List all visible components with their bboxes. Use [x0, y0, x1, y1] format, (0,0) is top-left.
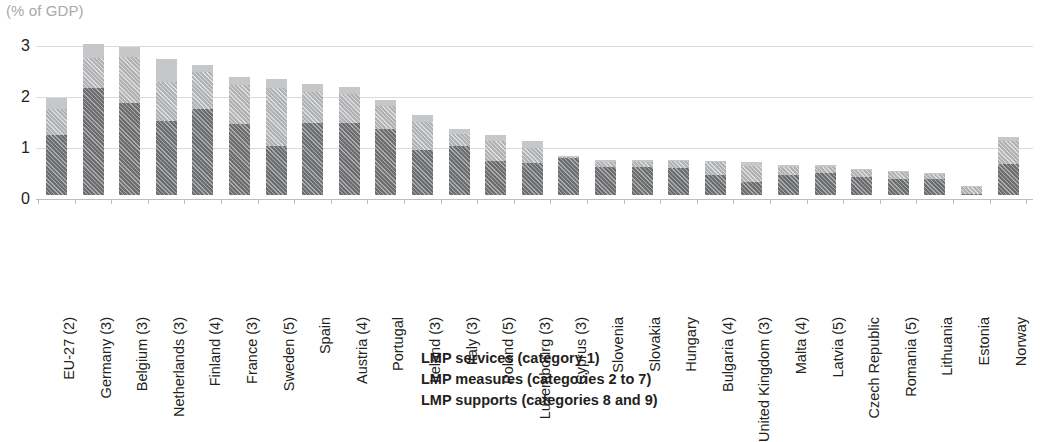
bar-segment-supports	[302, 123, 323, 195]
bar-segment-supports	[449, 146, 470, 195]
bar-segment-supports	[961, 194, 982, 195]
x-axis-tick	[477, 199, 478, 204]
x-axis-category-label: Czech Republic	[867, 317, 882, 419]
bar[interactable]	[705, 161, 726, 195]
x-axis-tick	[916, 199, 917, 204]
bar[interactable]	[485, 135, 506, 195]
x-axis-tick	[148, 199, 149, 204]
bar-segment-measures	[851, 170, 872, 177]
x-axis-tick	[258, 199, 259, 204]
x-axis-category-label: Norway	[1014, 317, 1029, 366]
bar-segment-services	[266, 79, 287, 89]
bar-segment-supports	[229, 124, 250, 195]
bar[interactable]	[522, 141, 543, 195]
bar[interactable]	[558, 156, 579, 195]
bar-segment-services	[229, 77, 250, 85]
bar-segment-supports	[119, 103, 140, 195]
bar[interactable]	[632, 160, 653, 195]
bar-segment-measures	[778, 167, 799, 175]
x-axis-tick	[111, 199, 112, 204]
bar-segment-supports	[888, 179, 909, 195]
bar[interactable]	[888, 171, 909, 195]
bar-segment-supports	[192, 109, 213, 195]
bar[interactable]	[815, 165, 836, 195]
bar[interactable]	[961, 186, 982, 195]
bar-segment-supports	[632, 167, 653, 195]
x-axis-category-label: Spain	[318, 317, 333, 354]
x-axis-tick	[331, 199, 332, 204]
bar-segment-services	[83, 44, 104, 59]
bar[interactable]	[266, 79, 287, 195]
x-axis-category-label: EU-27 (2)	[62, 317, 77, 380]
x-axis-tick	[294, 199, 295, 204]
x-axis-tick	[880, 199, 881, 204]
bar[interactable]	[449, 129, 470, 195]
bar-segment-supports	[851, 177, 872, 195]
bar[interactable]	[83, 44, 104, 195]
bar[interactable]	[119, 47, 140, 195]
x-axis-category-label: Latvia (5)	[831, 317, 846, 377]
x-axis-tick	[953, 199, 954, 204]
bar-segment-services	[339, 87, 360, 94]
bar-segment-services	[192, 65, 213, 72]
legend-item[interactable]: LMP supports (categories 8 and 9)	[400, 389, 800, 410]
bar-segment-supports	[924, 179, 945, 195]
x-axis-tick	[404, 199, 405, 204]
bar-segment-measures	[449, 134, 470, 146]
x-axis-tick	[587, 199, 588, 204]
bar-segment-measures	[741, 166, 762, 182]
bar-segment-supports	[266, 146, 287, 195]
bar-segment-supports	[339, 123, 360, 195]
x-axis-category-label: Netherlands (3)	[172, 317, 187, 417]
y-axis-tick-labels: 0123	[0, 40, 30, 205]
x-axis-tick	[807, 199, 808, 204]
bar[interactable]	[412, 115, 433, 195]
bar-segment-supports	[375, 129, 396, 195]
bar[interactable]	[229, 77, 250, 195]
bar-segment-supports	[778, 175, 799, 195]
bar-segment-measures	[83, 58, 104, 88]
x-axis-tick	[184, 199, 185, 204]
bar[interactable]	[741, 162, 762, 195]
legend-item[interactable]: LMP services (category 1)	[400, 347, 800, 368]
legend-swatch-services-icon	[400, 351, 414, 364]
x-axis-tick	[697, 199, 698, 204]
bar-segment-supports	[46, 135, 67, 195]
bar[interactable]	[924, 173, 945, 195]
bar[interactable]	[998, 137, 1019, 195]
bar[interactable]	[192, 65, 213, 195]
bar[interactable]	[668, 160, 689, 195]
bar[interactable]	[851, 169, 872, 196]
bar-segment-services	[156, 59, 177, 82]
y-axis-tick-label: 1	[0, 140, 30, 156]
bar[interactable]	[595, 160, 616, 195]
x-axis-tick	[990, 199, 991, 204]
bar[interactable]	[46, 98, 67, 195]
bar[interactable]	[156, 59, 177, 195]
bar[interactable]	[375, 100, 396, 195]
x-axis-category-label: Sweden (5)	[282, 317, 297, 391]
bar[interactable]	[302, 84, 323, 195]
bar-segment-measures	[668, 161, 689, 168]
bar-segment-measures	[888, 172, 909, 179]
bar-segment-supports	[412, 150, 433, 195]
bar[interactable]	[778, 165, 799, 195]
legend-label: LMP services (category 1)	[421, 350, 600, 366]
x-axis-category-labels: EU-27 (2)Germany (3)Belgium (3)Netherlan…	[36, 205, 1033, 325]
legend-swatch-measures-icon	[400, 372, 414, 385]
bar-segment-supports	[668, 168, 689, 195]
x-axis-category-label: Lithuania	[940, 317, 955, 376]
legend-label: LMP supports (categories 8 and 9)	[421, 392, 658, 408]
bar-segment-measures	[375, 106, 396, 129]
legend-item[interactable]: LMP measures (categories 2 to 7)	[400, 368, 800, 389]
bar[interactable]	[339, 87, 360, 195]
axis-title: (% of GDP)	[6, 2, 84, 19]
x-axis-category-label: Austria (4)	[355, 317, 370, 384]
bar-segment-supports	[815, 173, 836, 195]
y-axis-tick-label: 2	[0, 89, 30, 105]
bar-segment-measures	[961, 187, 982, 194]
chart-legend: LMP services (category 1)LMP measures (c…	[400, 347, 800, 410]
bar-segment-measures	[119, 57, 140, 102]
x-axis-category-label: Romania (5)	[904, 317, 919, 397]
bar-segment-supports	[83, 88, 104, 195]
